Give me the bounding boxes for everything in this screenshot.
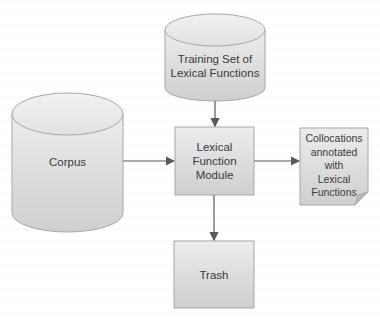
label-line: Corpus <box>49 155 86 169</box>
label-line: Module <box>192 168 236 182</box>
module-label: Lexical Function Module <box>175 127 254 195</box>
label-line: Functions <box>305 186 362 200</box>
label-line: Lexical Functions <box>171 66 260 80</box>
trash-label: Trash <box>174 241 254 308</box>
corpus-label: Corpus <box>12 150 123 174</box>
label-line: Lexical <box>305 173 362 187</box>
label-line: with <box>305 159 362 173</box>
label-line: Trash <box>200 268 229 282</box>
label-line: Collocations <box>305 132 362 146</box>
training-set-label: Training Set of Lexical Functions <box>165 44 265 88</box>
label-line: Lexical <box>192 140 236 154</box>
label-line: Training Set of <box>171 52 260 66</box>
output-label: Collocations annotated with Lexical Func… <box>300 130 368 202</box>
label-line: annotated <box>305 146 362 160</box>
label-line: Function <box>192 154 236 168</box>
